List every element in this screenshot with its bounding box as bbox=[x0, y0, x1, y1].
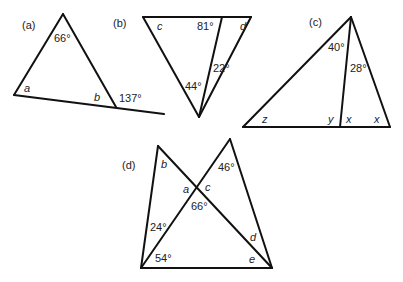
figure-a-label: (a) bbox=[22, 20, 35, 31]
figure-d-angle-a: a bbox=[183, 184, 189, 195]
figure-b-label: (b) bbox=[113, 18, 126, 29]
figure-c-angle-y: y bbox=[328, 114, 334, 125]
figure-c-angle-x-inner: x bbox=[346, 114, 352, 125]
figure-b-angle-81: 81° bbox=[197, 21, 214, 32]
figure-d-angle-b: b bbox=[161, 159, 167, 170]
figure-b-angle-22: 22° bbox=[213, 63, 230, 74]
figure-c-triangle bbox=[243, 17, 390, 127]
figure-d-angle-66: 66° bbox=[191, 201, 208, 212]
figure-a-apex-angle: 66° bbox=[54, 33, 71, 44]
figure-c-angle-28: 28° bbox=[350, 63, 367, 74]
figure-d-angle-e: e bbox=[249, 254, 255, 265]
figure-d-angle-24: 24° bbox=[150, 222, 167, 233]
figure-c-angle-40: 40° bbox=[328, 42, 345, 53]
figure-a-angle-b: b bbox=[94, 92, 100, 103]
figure-b-angle-44: 44° bbox=[185, 81, 202, 92]
figure-d-angle-54: 54° bbox=[155, 253, 172, 264]
figure-b-angle-c: c bbox=[157, 21, 163, 32]
figure-d-angle-46: 46° bbox=[218, 162, 235, 173]
figure-d-angle-c: c bbox=[205, 182, 211, 193]
figure-c-angle-z: z bbox=[262, 114, 268, 125]
figure-b-triangle bbox=[143, 17, 251, 117]
geometry-diagram: (a) 66° a b 137° (b) c 81° d 22° 44° (c)… bbox=[0, 0, 403, 282]
figure-c-angle-x-outer: x bbox=[374, 114, 380, 125]
figure-b-angle-d: d bbox=[240, 21, 246, 32]
figure-d-angle-d: d bbox=[250, 232, 256, 243]
figure-d-label: (d) bbox=[122, 160, 135, 171]
figure-a-angle-a: a bbox=[24, 83, 30, 94]
figure-a-exterior-angle: 137° bbox=[119, 93, 142, 104]
figure-c-label: (c) bbox=[309, 17, 322, 28]
